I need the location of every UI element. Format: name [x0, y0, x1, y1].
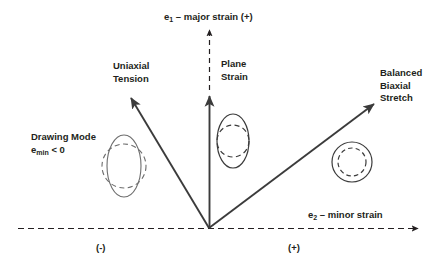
plane-strain-label: Plane Strain	[221, 58, 248, 83]
major-strain-text: – major strain (+)	[173, 11, 252, 22]
positive-quadrant-label: (+)	[288, 242, 300, 255]
emin-condition: < 0	[49, 144, 65, 155]
plane-strain-undeformed-circle	[217, 125, 249, 157]
uniaxial-tension-label: Uniaxial Tension	[113, 60, 149, 85]
negative-quadrant-label: (-)	[96, 242, 106, 255]
drawing-mode-line2: emin < 0	[31, 144, 96, 158]
balanced-biaxial-label-line2: Biaxial	[380, 80, 422, 93]
balanced-biaxial-label-line3: Stretch	[380, 92, 422, 105]
uniaxial-tension-label-line2: Tension	[113, 73, 149, 86]
uniaxial-tension-arrow	[131, 98, 209, 228]
balanced-biaxial-stretch-label: Balanced Biaxial Stretch	[380, 67, 422, 105]
biaxial-undeformed-circle	[338, 148, 366, 176]
drawing-mode-line1: Drawing Mode	[31, 131, 96, 144]
minor-strain-axis-label: e2 – minor strain	[308, 209, 383, 223]
plane-strain-deformed-ellipse	[217, 114, 249, 168]
major-strain-subscript: 1	[169, 16, 173, 23]
balanced-biaxial-label-line1: Balanced	[380, 67, 422, 80]
plane-strain-label-line1: Plane	[221, 58, 248, 71]
minor-strain-subscript: 2	[313, 214, 317, 221]
plane-strain-label-line2: Strain	[221, 71, 248, 84]
uniaxial-undeformed-circle	[102, 144, 146, 188]
uniaxial-tension-label-line1: Uniaxial	[113, 60, 149, 73]
emin-subscript: min	[36, 149, 48, 156]
major-strain-axis-label: e1 – major strain (+)	[164, 11, 253, 25]
drawing-mode-label: Drawing Mode emin < 0	[31, 131, 96, 157]
minor-strain-text: – minor strain	[317, 209, 382, 220]
strain-diagram-canvas: e1 – major strain (+) e2 – minor strain …	[0, 0, 436, 269]
